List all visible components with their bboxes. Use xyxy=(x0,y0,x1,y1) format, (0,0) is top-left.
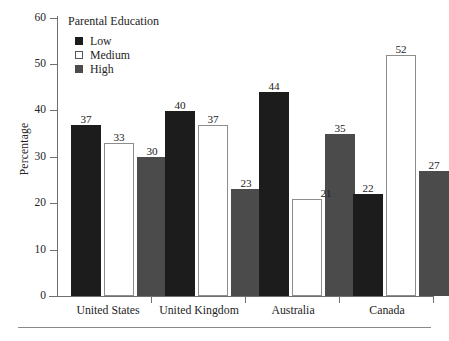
bar-label-australia-low: 44 xyxy=(254,80,294,92)
footer-divider xyxy=(18,327,431,328)
legend-title: Parental Education xyxy=(68,14,216,29)
y-tick-mark-50 xyxy=(50,64,57,65)
x-group-label-australia: Australia xyxy=(246,303,340,317)
bar-chart-figure: 60 50 40 30 20 10 0 Percentage 37 33 30 … xyxy=(0,0,449,341)
y-tick-mark-20 xyxy=(50,203,57,204)
footer-caption xyxy=(18,332,431,341)
y-tick-label-50: 50 xyxy=(2,58,46,70)
bar-canada-high xyxy=(419,171,449,296)
bar-australia-low xyxy=(259,92,289,296)
legend-swatch-high-icon xyxy=(75,65,83,73)
x-tick-mark-1 xyxy=(151,296,152,303)
bar-label-united-kingdom-low: 40 xyxy=(160,99,200,111)
bar-united-kingdom-medium xyxy=(198,125,228,296)
bar-label-united-kingdom-medium: 37 xyxy=(193,113,233,125)
legend-label-low: Low xyxy=(90,35,112,48)
y-tick-0: 0 xyxy=(0,290,46,302)
y-tick-mark-10 xyxy=(50,250,57,251)
bar-united-kingdom-high xyxy=(231,189,261,296)
bar-united-states-low xyxy=(71,125,101,296)
y-tick-mark-60 xyxy=(50,18,57,19)
y-tick-mark-40 xyxy=(50,110,57,111)
x-tick-mark-4 xyxy=(433,296,434,303)
y-tick-label-10: 10 xyxy=(2,244,46,256)
bar-united-kingdom-low xyxy=(165,111,195,296)
legend-label-medium: Medium xyxy=(90,49,130,62)
bar-label-australia-high: 35 xyxy=(320,122,360,134)
x-axis-line xyxy=(49,296,434,297)
bar-united-states-high xyxy=(137,157,167,296)
bar-label-canada-low: 22 xyxy=(348,182,388,194)
bar-canada-low xyxy=(353,194,383,296)
legend-item-low: Low xyxy=(75,34,216,48)
legend-item-high: High xyxy=(75,62,216,76)
legend-swatch-low-icon xyxy=(75,37,83,45)
bar-label-united-states-medium: 33 xyxy=(99,131,139,143)
bar-label-australia-medium: 21 xyxy=(306,187,346,199)
legend-item-medium: Medium xyxy=(75,48,216,62)
bar-canada-medium xyxy=(386,55,416,296)
y-tick-10: 10 xyxy=(0,244,46,256)
x-group-label-canada: Canada xyxy=(340,303,434,317)
bar-label-united-states-low: 37 xyxy=(66,113,106,125)
legend-label-high: High xyxy=(90,63,114,76)
x-group-label-united-kingdom: United Kingdom xyxy=(152,303,246,317)
x-tick-mark-3 xyxy=(339,296,340,303)
bar-label-canada-high: 27 xyxy=(414,159,449,171)
y-tick-label-60: 60 xyxy=(2,12,46,24)
legend: Parental Education Low Medium High xyxy=(66,14,216,76)
bar-australia-medium xyxy=(292,199,322,296)
x-group-label-united-states: United States xyxy=(62,303,154,317)
bar-label-canada-medium: 52 xyxy=(381,43,421,55)
bar-australia-high xyxy=(325,134,355,296)
y-tick-label-0: 0 xyxy=(2,290,46,302)
y-tick-50: 50 xyxy=(0,58,46,70)
y-axis-title: Percentage xyxy=(18,89,30,209)
legend-swatch-medium-icon xyxy=(75,51,83,59)
bar-united-states-medium xyxy=(104,143,134,296)
y-tick-60: 60 xyxy=(0,12,46,24)
x-tick-mark-2 xyxy=(245,296,246,303)
y-tick-mark-30 xyxy=(50,157,57,158)
